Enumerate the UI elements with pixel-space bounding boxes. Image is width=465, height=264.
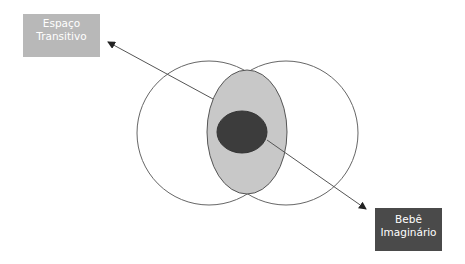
imaginary-baby-label: Bebê Imaginário — [375, 208, 442, 251]
arrow-to-transitional-space — [108, 42, 213, 99]
transitional-space-line1: Espaço — [43, 17, 80, 30]
core-ellipse — [217, 111, 267, 153]
imaginary-baby-line1: Bebê — [395, 213, 422, 226]
imaginary-baby-line2: Imaginário — [380, 226, 436, 239]
transitional-space-line2: Transitivo — [36, 30, 86, 43]
transitional-space-label: Espaço Transitivo — [23, 14, 100, 57]
